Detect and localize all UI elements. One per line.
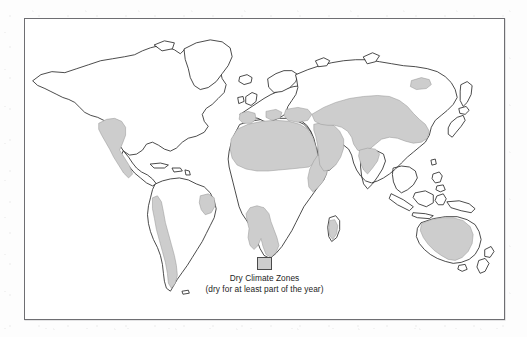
sulawesi-outline [435,194,446,205]
map-frame: Dry Climate Zones (dry for at least part… [24,18,505,320]
hispaniola-outline [172,168,182,172]
japan-outline [448,115,465,137]
dry-zone-italy-balkans [266,109,282,120]
legend-caption: Dry Climate Zones (dry for at least part… [206,273,324,294]
philippines-outline [432,172,442,183]
map-page: Dry Climate Zones (dry for at least part… [0,0,527,337]
sumatra-outline [389,194,413,211]
caribbean-islands-outline [150,163,168,168]
dry-zone-iberia [239,111,256,123]
new-guinea-outline [447,201,475,213]
map-legend: Dry Climate Zones (dry for at least part… [25,257,504,294]
dry-zone-swatch [257,257,272,270]
legend-title: Dry Climate Zones [206,273,324,284]
dry-zone-australia [420,218,473,261]
philippines-south-outline [436,185,445,192]
taiwan-outline [431,159,436,165]
ireland-outline [238,96,244,103]
hokkaido-outline [459,106,469,114]
lesser-antilles-outline [185,170,190,175]
borneo-outline [413,191,433,207]
java-outline [412,213,433,219]
dry-zone-sahara [230,120,318,171]
southeast-asia-outline [392,166,417,193]
new-zealand-north-outline [485,246,494,257]
legend-subtitle: (dry for at least part of the year) [206,284,324,295]
dry-zone-anatolia [284,107,312,122]
british-isles-outline [246,93,257,106]
iceland-outline [239,75,252,85]
kamchatka-outline [460,82,472,107]
